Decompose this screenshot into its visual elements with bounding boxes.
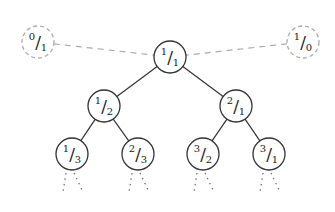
denominator: 2 (107, 106, 113, 117)
denominator: 2 (206, 154, 212, 165)
dashed-edge (186, 44, 287, 55)
stern-brocot-tree: 0/11/01/11/22/11/32/33/23/1 (0, 0, 335, 212)
continuation-dots (260, 173, 263, 192)
continuation-dots (271, 173, 280, 192)
tree-edge (245, 119, 260, 141)
tree-edge (183, 67, 223, 97)
node-2-3: 2/3 (122, 138, 154, 170)
continuation-dots (205, 173, 214, 192)
node-1-1: 1/1 (154, 41, 186, 73)
sentinel-node-1-0: 1/0 (287, 26, 319, 58)
continuation-dots (74, 173, 83, 192)
denominator: 1 (41, 42, 47, 53)
tree-edge (212, 119, 227, 141)
node-3-1: 3/1 (253, 138, 285, 170)
continuation-dots (63, 173, 280, 192)
tree-edge (117, 67, 157, 97)
node-1-3: 1/3 (56, 138, 88, 170)
tree-nodes: 0/11/01/11/22/11/32/33/23/1 (22, 26, 319, 170)
denominator: 1 (239, 106, 245, 117)
denominator: 1 (173, 57, 179, 68)
node-1-2: 1/2 (88, 90, 120, 122)
denominator: 0 (306, 42, 312, 53)
tree-edge (113, 119, 129, 141)
continuation-dots (129, 173, 132, 192)
continuation-dots (63, 173, 66, 192)
denominator: 3 (141, 154, 147, 165)
denominator: 1 (272, 154, 278, 165)
denominator: 3 (75, 154, 81, 165)
node-3-2: 3/2 (187, 138, 219, 170)
dashed-edge (54, 44, 154, 55)
tree-edge (81, 119, 95, 140)
continuation-dots (140, 173, 149, 192)
sentinel-node-0-1: 0/1 (22, 26, 54, 58)
node-2-1: 2/1 (220, 90, 252, 122)
continuation-dots (194, 173, 197, 192)
